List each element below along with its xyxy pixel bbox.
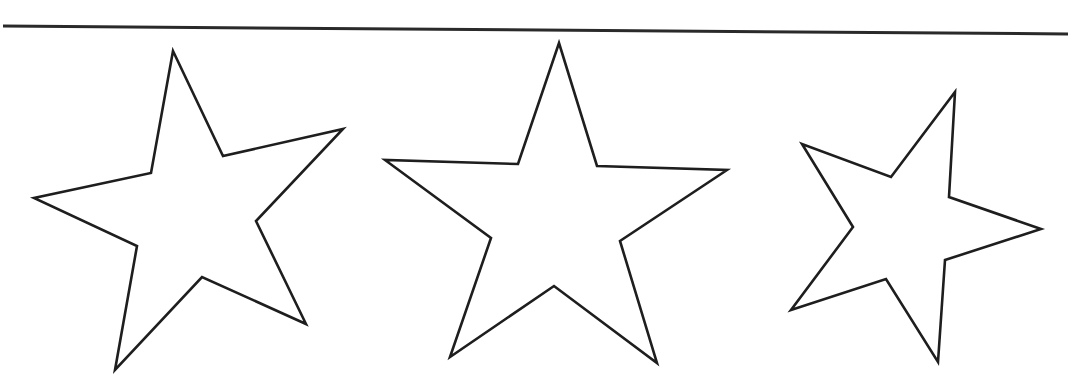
- star-outline-left: [34, 51, 343, 370]
- star-outlines-canvas: [0, 0, 1068, 389]
- star-outline-center: [385, 43, 727, 363]
- star-outline-right: [791, 92, 1041, 362]
- horizontal-rule-line: [3, 26, 1068, 34]
